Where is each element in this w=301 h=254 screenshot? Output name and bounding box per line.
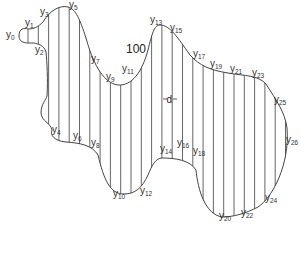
label-y21: y21 [230, 63, 243, 75]
label-y20: y20 [219, 210, 232, 222]
label-y11: y11 [122, 63, 134, 75]
label-y2: y2 [35, 44, 44, 56]
label-y9: y9 [106, 71, 115, 83]
label-y25: y25 [274, 94, 287, 106]
label-y13: y13 [150, 14, 163, 26]
area-diagram: 100 d y0 y1 y2 y3 y4 y5 y6 y7 y8 y9 y10 … [0, 0, 301, 254]
label-y3: y3 [40, 6, 49, 18]
label-y6: y6 [73, 130, 82, 142]
label-y7: y7 [91, 53, 100, 65]
label-y24: y24 [265, 192, 278, 204]
interval-d-marker: d [163, 94, 177, 105]
label-y22: y22 [241, 207, 254, 219]
label-y1: y1 [25, 17, 34, 29]
label-y26: y26 [286, 134, 299, 146]
label-y14: y14 [160, 143, 173, 155]
label-y16: y16 [177, 137, 190, 149]
label-y19: y19 [210, 58, 223, 70]
region-value: 100 [126, 42, 146, 56]
label-y17: y17 [193, 48, 206, 60]
label-y23: y23 [252, 67, 265, 79]
label-y15: y15 [170, 22, 183, 34]
label-y12: y12 [140, 185, 153, 197]
label-y8: y8 [91, 137, 100, 149]
label-y5: y5 [69, 0, 78, 11]
interval-label: d [167, 94, 173, 105]
label-y18: y18 [193, 145, 206, 157]
irregular-area-figure: 100 d y0 y1 y2 y3 y4 y5 y6 y7 y8 y9 y10 … [0, 0, 301, 254]
label-y10: y10 [113, 188, 126, 200]
label-y0: y0 [6, 29, 15, 41]
label-y4: y4 [52, 124, 61, 136]
